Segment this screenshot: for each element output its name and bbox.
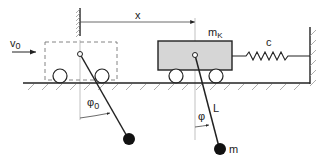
- initial-velocity: v0: [10, 37, 36, 52]
- angle-label: φ: [198, 110, 205, 122]
- floor: [23, 83, 310, 90]
- velocity-label: v0: [10, 37, 21, 51]
- pendulum-mass-label: m: [229, 143, 238, 155]
- cart-mass-label: mK: [208, 26, 223, 40]
- pendulum-length-label: L: [213, 102, 219, 114]
- initial-pendulum: φ0: [78, 52, 136, 146]
- displacement-label: x: [135, 9, 141, 21]
- right-wall: [310, 27, 316, 86]
- initial-angle-label: φ0: [87, 96, 99, 111]
- reference-wall: [76, 8, 80, 37]
- cart-pendulum-diagram: x v0 mK c: [0, 0, 328, 160]
- spring-constant-label: c: [266, 36, 272, 48]
- spring: c: [232, 36, 310, 60]
